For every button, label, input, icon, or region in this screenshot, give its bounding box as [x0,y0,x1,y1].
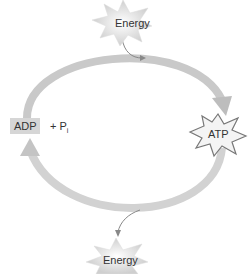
atp-label: ATP [208,129,229,140]
phosphate-subscript: i [67,127,69,134]
hydrolysis-arrow [20,138,222,208]
energy-output-arrow [118,210,140,232]
phosphate-text: + P [50,120,67,132]
energy-output-label: Energy [103,255,138,266]
phosphate-label: + Pi [50,121,68,134]
synthesis-arrow [27,58,232,118]
adp-label: ADP [14,121,37,132]
energy-input-label: Energy [115,18,150,29]
